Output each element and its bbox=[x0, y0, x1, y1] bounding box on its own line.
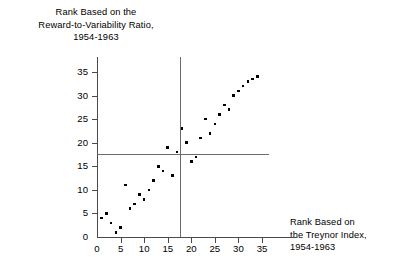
data-point bbox=[190, 160, 193, 163]
data-point bbox=[152, 179, 155, 182]
x-axis-tick-label: 20 bbox=[178, 244, 204, 254]
data-point bbox=[133, 203, 136, 206]
x-axis-tick-label: 25 bbox=[202, 244, 228, 254]
y-axis-tick bbox=[92, 166, 97, 167]
x-axis-tick-label: 15 bbox=[155, 244, 181, 254]
x-axis-tick-label: 30 bbox=[225, 244, 251, 254]
data-point bbox=[119, 226, 122, 229]
scatter-plot-figure: Rank Based on the Reward-to-Variability … bbox=[0, 0, 402, 273]
data-point bbox=[242, 85, 245, 88]
y-axis-line bbox=[97, 57, 98, 238]
y-axis-tick-label: 15 bbox=[62, 161, 88, 171]
data-point bbox=[138, 193, 141, 196]
data-point bbox=[232, 94, 235, 97]
y-axis-tick bbox=[92, 96, 97, 97]
y-axis-tick-label: 30 bbox=[62, 91, 88, 101]
y-axis-tick-label: 5 bbox=[62, 208, 88, 218]
data-point bbox=[143, 198, 146, 201]
y-axis-tick-label: 0 bbox=[62, 232, 88, 242]
plot-area: 0510152025303505101520253035 bbox=[0, 0, 402, 273]
x-axis-tick-label: 35 bbox=[249, 244, 275, 254]
x-axis-tick-label: 0 bbox=[84, 244, 110, 254]
data-point bbox=[237, 90, 240, 93]
x-axis-tick-label: 5 bbox=[108, 244, 134, 254]
data-point bbox=[209, 132, 212, 135]
y-axis-tick bbox=[92, 213, 97, 214]
data-point bbox=[223, 104, 226, 107]
data-point bbox=[218, 113, 221, 116]
data-point bbox=[214, 123, 217, 126]
data-point bbox=[204, 118, 207, 121]
y-axis-tick bbox=[92, 72, 97, 73]
data-point bbox=[157, 165, 160, 168]
data-point bbox=[251, 78, 254, 81]
data-point bbox=[228, 108, 231, 111]
data-point bbox=[110, 222, 113, 225]
y-axis-tick bbox=[92, 143, 97, 144]
x-axis-line bbox=[97, 237, 297, 238]
data-point bbox=[247, 80, 250, 83]
data-point bbox=[181, 127, 184, 130]
y-axis-tick-label: 20 bbox=[62, 138, 88, 148]
data-point bbox=[171, 174, 174, 177]
data-point bbox=[195, 156, 198, 159]
median-line-horizontal bbox=[97, 154, 269, 155]
y-axis-tick-label: 10 bbox=[62, 185, 88, 195]
data-point bbox=[100, 217, 103, 220]
data-point bbox=[129, 207, 132, 210]
y-axis-tick bbox=[92, 119, 97, 120]
x-axis-tick-label: 10 bbox=[131, 244, 157, 254]
data-point bbox=[176, 151, 179, 154]
data-point bbox=[185, 141, 188, 144]
data-point bbox=[124, 184, 127, 187]
y-axis-tick-label: 35 bbox=[62, 67, 88, 77]
y-axis-tick-label: 25 bbox=[62, 114, 88, 124]
data-point bbox=[256, 75, 259, 78]
data-point bbox=[105, 212, 108, 215]
data-point bbox=[162, 170, 165, 173]
data-point bbox=[115, 231, 118, 234]
data-point bbox=[166, 146, 169, 149]
data-point bbox=[148, 189, 151, 192]
data-point bbox=[199, 137, 202, 140]
median-line-vertical bbox=[180, 57, 181, 237]
y-axis-tick bbox=[92, 190, 97, 191]
